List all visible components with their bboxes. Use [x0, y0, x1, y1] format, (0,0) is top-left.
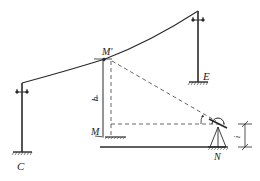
- cable-height-diagram: C E M' M N h i: [0, 0, 260, 181]
- label-i: i: [232, 135, 242, 138]
- label-n: N: [213, 151, 222, 162]
- label-c: C: [17, 160, 25, 172]
- label-m-prime: M': [101, 46, 113, 57]
- label-h: h: [90, 96, 100, 101]
- label-e: E: [202, 70, 210, 82]
- instrument-height-dimension: [238, 121, 252, 150]
- instrument-n: [208, 118, 228, 150]
- pole-c: [12, 83, 32, 155]
- label-m: M: [90, 126, 100, 137]
- sight-line: [112, 61, 216, 121]
